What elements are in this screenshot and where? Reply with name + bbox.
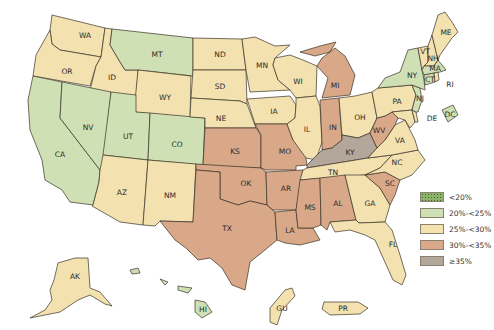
label-KS: KS	[230, 147, 240, 156]
legend-item-30to35: 30%-<35%	[420, 238, 494, 252]
legend-label: <20%	[449, 193, 472, 202]
legend-item-lt20: <20%	[420, 190, 494, 204]
label-OK: OK	[241, 179, 253, 188]
label-NJ: NJ	[416, 94, 424, 103]
label-NC: NC	[392, 158, 403, 167]
us-choropleth-map: WA OR CA ID NV MT WY UT AZ CO NM ND SD N…	[0, 0, 494, 330]
label-PA: PA	[392, 97, 402, 106]
legend-item-20to25: 20%-<25%	[420, 206, 494, 220]
label-WA: WA	[79, 31, 92, 40]
label-AK: AK	[70, 272, 81, 281]
label-VA: VA	[395, 136, 406, 145]
label-IN: IN	[329, 123, 337, 132]
legend-swatch	[420, 224, 444, 234]
label-NM: NM	[164, 191, 176, 200]
label-FL: FL	[389, 240, 398, 249]
label-OR: OR	[61, 67, 72, 76]
label-AR: AR	[281, 184, 291, 193]
label-ME: ME	[440, 28, 451, 37]
map-legend: <20% 20%-<25% 25%-<30% 30%-<35% ≥35%	[420, 190, 494, 270]
label-MA: MA	[429, 64, 441, 73]
label-MI: MI	[331, 81, 340, 90]
legend-label: 30%-<35%	[449, 241, 491, 250]
label-ID: ID	[108, 73, 116, 82]
label-ND: ND	[214, 50, 226, 59]
label-IA: IA	[270, 107, 278, 116]
legend-swatch	[420, 256, 444, 266]
label-WY: WY	[159, 93, 171, 102]
label-RI: RI	[446, 80, 453, 89]
legend-item-25to30: 25%-<30%	[420, 222, 494, 236]
label-LA: LA	[285, 226, 295, 235]
label-MO: MO	[279, 147, 291, 156]
label-WI: WI	[293, 77, 303, 86]
label-SD: SD	[215, 82, 226, 91]
label-MS: MS	[304, 203, 315, 212]
label-CT: CT	[425, 75, 435, 84]
label-PR: PR	[338, 304, 348, 313]
state-AK[interactable]	[30, 258, 112, 318]
legend-label: 20%-<25%	[449, 209, 491, 218]
label-OH: OH	[354, 113, 366, 122]
legend-swatch	[420, 240, 444, 250]
legend-label: 25%-<30%	[449, 225, 491, 234]
label-UT: UT	[123, 132, 133, 141]
label-NV: NV	[83, 123, 95, 132]
label-NH: NH	[427, 54, 438, 63]
label-MT: MT	[151, 50, 162, 59]
label-NY: NY	[407, 71, 418, 80]
label-SC: SC	[385, 179, 395, 188]
label-TX: TX	[221, 224, 232, 233]
label-GU: GU	[276, 304, 287, 313]
label-CA: CA	[55, 150, 66, 159]
legend-swatch	[420, 192, 444, 202]
label-CO: CO	[171, 140, 182, 149]
label-GA: GA	[365, 199, 377, 208]
label-AZ: AZ	[117, 188, 127, 197]
legend-swatch	[420, 208, 444, 218]
label-TN: TN	[327, 168, 338, 177]
label-HI: HI	[199, 305, 207, 314]
state-CO[interactable]	[148, 113, 205, 165]
label-DE: DE	[427, 114, 438, 123]
label-MN: MN	[256, 61, 268, 70]
label-DC: DC	[444, 110, 455, 119]
label-AL: AL	[333, 199, 343, 208]
state-FL[interactable]	[330, 220, 406, 285]
label-WV: WV	[373, 126, 386, 135]
label-IL: IL	[304, 125, 311, 134]
label-KY: KY	[345, 148, 355, 157]
state-NY[interactable]	[378, 48, 425, 90]
legend-label: ≥35%	[449, 257, 472, 266]
legend-item-ge35: ≥35%	[420, 254, 494, 268]
label-NE: NE	[216, 114, 227, 123]
